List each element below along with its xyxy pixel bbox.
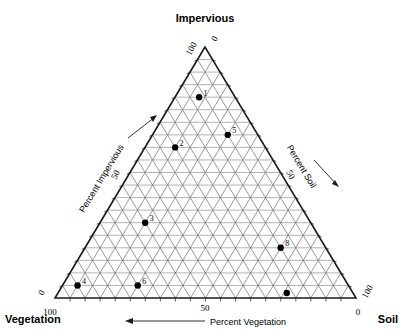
data-point-label: 4 [82, 277, 86, 286]
data-point-marker[interactable] [225, 132, 231, 138]
corner-tick-bottomright-lower: 0 [356, 307, 361, 317]
axis-title-vegetation: Percent Vegetation [210, 317, 286, 327]
data-point-marker[interactable] [135, 282, 141, 288]
data-point-marker[interactable] [284, 290, 290, 296]
data-point-label: 1 [204, 89, 208, 98]
data-point-marker[interactable] [277, 245, 283, 251]
data-point-label: 6 [142, 277, 146, 286]
data-point-label: 8 [285, 239, 289, 248]
data-point[interactable] [284, 290, 290, 296]
data-point-marker[interactable] [172, 144, 178, 150]
vertex-label-soil: Soil [378, 313, 398, 325]
data-point-marker[interactable] [142, 220, 148, 226]
tick-bottom-50: 50 [201, 303, 211, 313]
data-point-marker[interactable] [74, 282, 80, 288]
data-point-label: 3 [150, 214, 154, 223]
ternary-plot-svg: Impervious Vegetation Soil 100 0 0 100 1… [0, 0, 403, 336]
corner-tick-bottomleft-lower: 100 [43, 307, 57, 317]
vertex-label-impervious: Impervious [176, 12, 235, 24]
data-point-label: 2 [180, 139, 184, 148]
data-point-label: 5 [232, 126, 236, 135]
ternary-chart: Impervious Vegetation Soil 100 0 0 100 1… [0, 0, 403, 336]
data-point-marker[interactable] [196, 94, 202, 100]
